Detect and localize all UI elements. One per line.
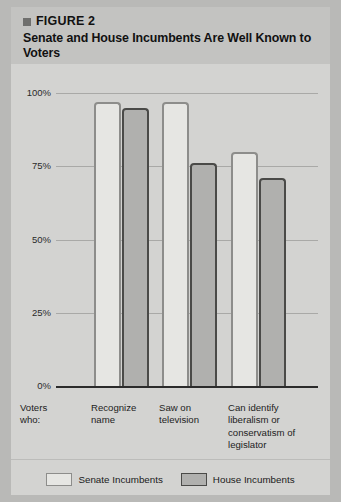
legend-entry-senate[interactable]: Senate Incumbents [46, 473, 162, 486]
chart-plot-area: 0%25%50%75%100% [11, 64, 330, 402]
figure-title: Senate and House Incumbents Are Well Kno… [23, 31, 318, 60]
legend-divider [11, 459, 330, 460]
square-bullet-icon [23, 18, 31, 26]
chart-bars [11, 64, 330, 402]
x-axis-category-labels: Voters who: Recognize nameSaw on televis… [11, 402, 330, 464]
x-axis-category-label: Can identify liberalism or conservatism … [228, 402, 302, 452]
legend-swatch-house [181, 473, 207, 486]
legend-label: Senate Incumbents [78, 474, 162, 485]
legend-label: House Incumbents [213, 474, 295, 485]
x-axis-category-label: Recognize name [91, 402, 153, 427]
bar-senate-2 [231, 152, 258, 386]
bar-house-1 [190, 163, 217, 386]
figure-kicker-row: FIGURE 2 [23, 14, 318, 29]
figure-header: FIGURE 2 Senate and House Incumbents Are… [11, 7, 330, 64]
x-axis-category-label: Saw on television [159, 402, 221, 427]
legend-entry-house[interactable]: House Incumbents [181, 473, 295, 486]
bar-senate-1 [162, 102, 189, 386]
bar-house-0 [122, 108, 149, 386]
legend-swatch-senate [46, 473, 72, 486]
x-axis-line [56, 386, 318, 388]
bar-senate-0 [94, 102, 121, 386]
x-axis-intro-label: Voters who: [20, 402, 64, 427]
bar-house-2 [259, 178, 286, 386]
figure-number-label: FIGURE 2 [36, 15, 95, 28]
figure-card: FIGURE 2 Senate and House Incumbents Are… [11, 7, 330, 495]
chart-legend: Senate IncumbentsHouse Incumbents [11, 468, 330, 490]
